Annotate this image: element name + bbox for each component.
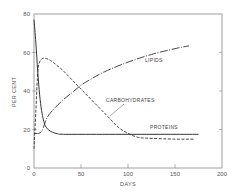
x-tick-label: 100: [123, 171, 134, 177]
chart-container: 020406080 050100150200 PER CENT DAYS LIP…: [0, 0, 236, 194]
proteins-curve: [34, 20, 199, 135]
carbohydrates-pointer: [110, 104, 124, 116]
x-tick-label: 200: [217, 171, 228, 177]
carbohydrates-curve: [34, 58, 194, 149]
y-tick-label: 80: [23, 11, 30, 17]
x-axis-label: DAYS: [120, 181, 136, 187]
x-tick-label: 150: [170, 171, 181, 177]
carbohydrates-label: CARBOHYDRATES: [106, 97, 155, 103]
y-tick-label: 60: [23, 50, 30, 56]
y-tick-labels: 020406080: [23, 11, 30, 171]
proteins-label: PROTEINS: [150, 124, 178, 130]
x-tick-labels: 050100150200: [32, 171, 227, 177]
lipids-label: LIPIDS: [145, 57, 163, 63]
plot-frame: [34, 14, 222, 168]
x-tick-label: 0: [32, 171, 36, 177]
line-chart: 020406080 050100150200 PER CENT DAYS LIP…: [0, 0, 236, 194]
y-axis-label: PER CENT: [11, 77, 17, 108]
y-tick-label: 20: [23, 127, 30, 133]
y-tick-label: 40: [23, 88, 30, 94]
axis-ticks: [32, 53, 222, 169]
y-tick-label: 0: [27, 165, 31, 171]
x-tick-label: 50: [78, 171, 85, 177]
